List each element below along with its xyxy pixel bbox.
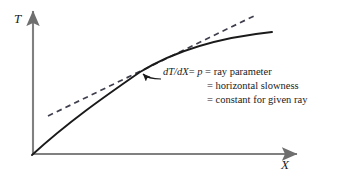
ray-parameter-text: ray parameter xyxy=(214,66,272,77)
x-axis-label: X xyxy=(281,158,289,171)
y-axis-label: T xyxy=(14,12,21,25)
travel-time-curve-figure: T X dT/dX= p = ray parameter = horizonta… xyxy=(0,0,360,180)
annotation-text-block: dT/dX= p = ray parameter = horizontal sl… xyxy=(163,65,353,107)
horizontal-slowness-text: horizontal slowness xyxy=(216,80,299,91)
annotation-leader-line xyxy=(143,74,161,79)
annotation-line-3: = constant for given ray xyxy=(163,93,353,107)
annotation-line-1: dT/dX= p = ray parameter xyxy=(163,65,353,79)
annotation-dT-dX-expression: dT/dX xyxy=(163,66,189,77)
constant-for-given-ray-text: constant for given ray xyxy=(216,94,308,105)
annotation-line-2: = horizontal slowness xyxy=(163,79,353,93)
